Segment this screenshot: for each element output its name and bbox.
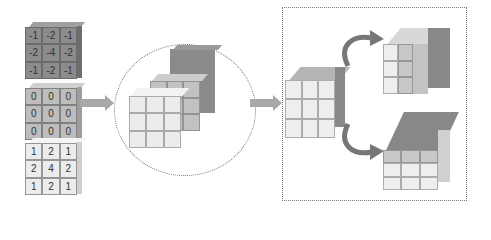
- stacked-slice-front: [129, 96, 181, 148]
- kernel-slice-positive: 1 2 1 2 4 2 1 2 1: [25, 143, 77, 195]
- kernel-grid: -1 -2 -1 -2 -4 -2 -1 -2 -1: [25, 27, 77, 79]
- kernel-grid: 1 2 1 2 4 2 1 2 1: [25, 143, 77, 195]
- curved-arrow-down-icon: [338, 120, 388, 162]
- combined-kernel-cube: [285, 80, 335, 138]
- kernel-slice-negative: -1 -2 -1 -2 -4 -2 -1 -2 -1: [25, 27, 77, 79]
- curved-arrow-up-icon: [338, 28, 388, 70]
- arrow-right-icon: [250, 99, 274, 107]
- kernel-grid: 0 0 0 0 0 0 0 0 0: [25, 88, 77, 140]
- rotated-kernel-variant-2: [383, 150, 438, 190]
- arrow-right-icon: [81, 99, 106, 107]
- kernel-slice-zero: 0 0 0 0 0 0 0 0 0: [25, 88, 77, 140]
